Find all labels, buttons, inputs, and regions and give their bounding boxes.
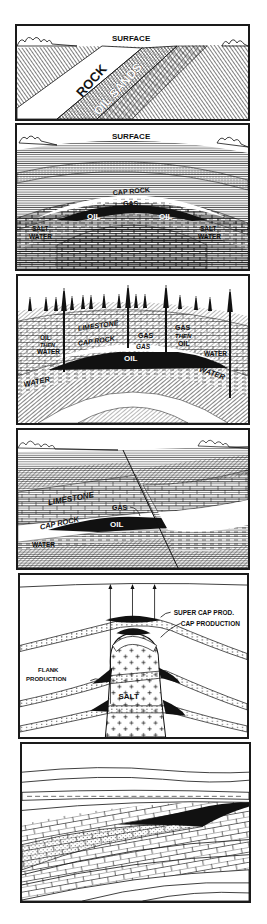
label-super-cap: SUPER CAP PROD. — [174, 609, 234, 616]
arrow-icon — [161, 612, 171, 617]
derrick-icon — [54, 297, 58, 311]
label-gas-lower: GAS — [136, 343, 151, 350]
derrick-icon — [61, 288, 67, 311]
label-gas-then-oil: GAS — [175, 324, 191, 331]
derrick-icon — [117, 294, 121, 308]
derrick-icon — [28, 297, 32, 311]
label-oil-right: OIL — [159, 212, 172, 221]
derrick-icon — [163, 285, 169, 308]
shrub-icon — [18, 441, 118, 450]
label-flank-production: FLANK — [38, 667, 59, 673]
label-surface: SURFACE — [112, 132, 151, 141]
derrick-icon — [208, 297, 212, 311]
outcrop-diagram: SURFACE ROCK OIL SANDS — [17, 26, 248, 119]
label-salt-water-left: SALT — [32, 225, 49, 232]
panel-fault-trap: LIMESTONE GAS CAP ROCK OIL WATER — [16, 428, 250, 570]
shrub-icon — [19, 136, 57, 145]
panel-anticline: SURFACE CAP ROCK GAS OIL OIL SALT WATER … — [15, 123, 250, 271]
label-gas-then-oil: OIL — [178, 340, 190, 347]
derrick-icon — [125, 285, 131, 308]
label-gas: GAS — [123, 200, 139, 207]
label-oil-left: OIL — [87, 212, 100, 221]
label-salt-water-right: WATER — [198, 233, 221, 240]
label-gas-then-oil: THEN — [175, 333, 192, 339]
panel-outcrop: SURFACE ROCK OIL SANDS — [15, 24, 250, 121]
label-salt: SALT — [118, 692, 138, 701]
label-oil: OIL — [110, 520, 123, 529]
salt-dome-diagram: SUPER CAP PROD. CAP PRODUCTION FLANK PRO… — [20, 575, 247, 737]
derrick-icon — [143, 294, 147, 308]
panel-stratigraphic-trap — [20, 742, 251, 903]
label-cap-production: CAP PRODUCTION — [181, 620, 240, 627]
label-gas-upper: GAS — [138, 332, 154, 339]
derrick-icon — [134, 294, 138, 308]
panel-anticline-wells: LIMESTONE CAP ROCK OIL THEN WATER GAS GA… — [16, 274, 250, 425]
anticline-wells-diagram: LIMESTONE CAP ROCK OIL THEN WATER GAS GA… — [18, 276, 248, 423]
label-flank-production: PRODUCTION — [26, 676, 66, 682]
shrub-icon — [222, 40, 248, 46]
label-surface: SURFACE — [112, 34, 151, 43]
shrub-icon — [17, 37, 77, 46]
anticline-diagram: SURFACE CAP ROCK GAS OIL OIL SALT WATER … — [17, 125, 248, 269]
label-oil-then-water: WATER — [37, 348, 60, 355]
label-oil: OIL — [124, 354, 137, 363]
shrub-icon — [217, 137, 248, 147]
label-water-well: WATER — [204, 350, 227, 357]
derrick-icon — [44, 297, 48, 311]
panel-salt-dome: SUPER CAP PROD. CAP PRODUCTION FLANK PRO… — [18, 573, 249, 739]
label-oil-then-water: OIL — [40, 334, 51, 341]
derrick-icon — [178, 295, 182, 309]
fault-trap-diagram: LIMESTONE GAS CAP ROCK OIL WATER — [18, 430, 248, 568]
label-water: WATER — [32, 541, 55, 548]
derrick-icon — [70, 296, 74, 310]
derrick-icon — [102, 294, 106, 308]
arrow-up-icon — [108, 584, 156, 589]
derrick-icon — [89, 295, 93, 309]
label-salt-water-right: SALT — [200, 225, 217, 232]
label-salt-water-left: WATER — [29, 233, 52, 240]
derrick-icon — [81, 295, 85, 309]
label-gas: GAS — [112, 504, 128, 511]
derrick-icon — [194, 296, 198, 310]
derrick-icon — [227, 289, 233, 312]
stratigraphic-trap-diagram — [22, 744, 249, 901]
